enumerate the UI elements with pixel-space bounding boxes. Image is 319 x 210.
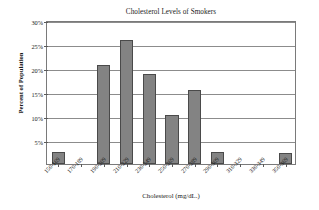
gridline [47,46,295,47]
bar [143,74,156,164]
y-axis-tick-label: 15% [31,91,47,98]
y-axis-tick-label: 25% [31,43,47,50]
plot-area: 30%25%20%15%10%5% [46,21,296,165]
gridline [47,70,295,71]
gridline [47,94,295,95]
x-axis-tick-mark [58,164,59,167]
bar [120,40,133,164]
x-axis-tick-mark [217,164,218,167]
gridline [47,22,295,23]
bar [97,65,110,164]
chart-title: Cholesterol Levels of Smokers [45,8,297,17]
bar [188,90,201,164]
y-axis-tick-label: 10% [31,115,47,122]
y-axis-tick-label: 30% [31,19,47,26]
x-axis-title: Cholesterol (mg/dL.) [45,191,297,200]
y-axis-title: Percent of Population [17,23,25,143]
y-axis-tick-label: 5% [35,139,47,146]
chart-figure: Cholesterol Levels of Smokers Percent of… [0,0,319,210]
y-axis-tick-label: 20% [31,67,47,74]
